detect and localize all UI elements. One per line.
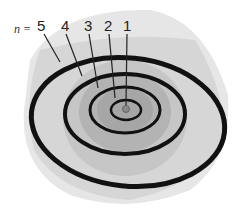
nucleus xyxy=(123,106,130,113)
n-equals-label: n = xyxy=(14,22,31,37)
shell-label-1: 1 xyxy=(123,18,131,33)
shell-label-2: 2 xyxy=(104,18,112,33)
shell-label-4: 4 xyxy=(61,18,69,33)
shell-label-3: 3 xyxy=(84,18,92,33)
shell-label-5: 5 xyxy=(37,18,45,33)
